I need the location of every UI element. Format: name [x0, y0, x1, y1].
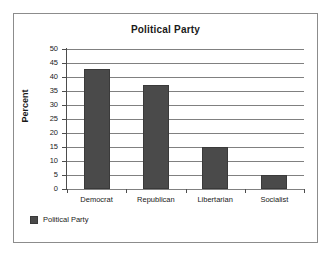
- y-axis-tick-label: 20: [30, 129, 58, 137]
- y-axis-tick-label: 45: [30, 59, 58, 67]
- legend-label-political-party: Political Party: [43, 216, 88, 224]
- bar: [261, 175, 287, 189]
- x-axis-tick-label: Republican: [126, 196, 185, 204]
- chart-legend: Political Party: [30, 216, 88, 224]
- chart-frame: Political Party Percent 5045403530252015…: [13, 13, 318, 243]
- x-axis-tick-mark: [304, 189, 305, 193]
- bar: [84, 69, 110, 189]
- x-axis-tick-label: Socialist: [245, 196, 304, 204]
- y-axis-tick-label: 50: [30, 45, 58, 53]
- y-axis-tick-label: 25: [30, 115, 58, 123]
- bar: [143, 85, 169, 189]
- gridline: [67, 63, 304, 64]
- y-axis-tick-label: 5: [30, 171, 58, 179]
- gridline: [67, 49, 304, 50]
- x-axis-tick-label: Democrat: [67, 196, 126, 204]
- y-axis-tick-label: 30: [30, 101, 58, 109]
- y-axis-tick-label: 40: [30, 73, 58, 81]
- x-axis-tick-mark: [67, 189, 68, 193]
- y-axis-tick-label: 10: [30, 157, 58, 165]
- x-axis-tick-label: Libertarian: [186, 196, 245, 204]
- x-axis-tick-mark: [186, 189, 187, 193]
- plot-area: [67, 49, 304, 189]
- y-axis-tick-label: 15: [30, 143, 58, 151]
- chart-title: Political Party: [14, 24, 317, 35]
- legend-swatch-political-party: [30, 216, 38, 224]
- y-axis-tick-label: 0: [30, 185, 58, 193]
- x-axis-tick-mark: [126, 189, 127, 193]
- y-axis-title: Percent: [20, 66, 30, 146]
- y-axis-tick-label: 35: [30, 87, 58, 95]
- x-axis-tick-mark: [245, 189, 246, 193]
- bar: [202, 147, 228, 189]
